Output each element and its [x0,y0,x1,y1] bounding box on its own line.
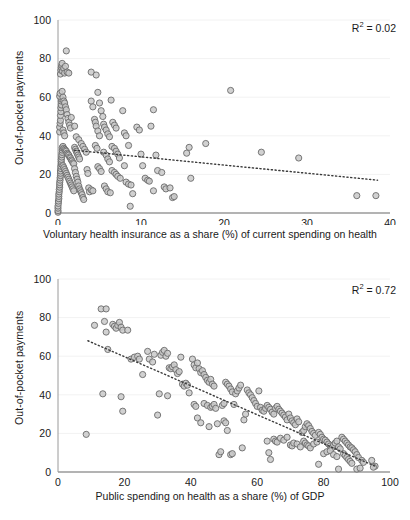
scatter-point [106,159,112,165]
y-tick-label: 0 [45,207,51,219]
scatter-point [127,203,133,209]
y-axis-label-bottom: Out-of-pocket payments [13,311,25,425]
scatter-point [83,431,89,437]
scatter-point [150,359,156,365]
x-tick-label: 60 [251,476,263,487]
trend-line [88,341,375,466]
gridlines [58,20,390,174]
data-points [55,48,379,216]
scatter-point [125,142,131,148]
scatter-point [100,391,106,397]
scatter-point [140,371,146,377]
scatter-point [360,459,366,465]
scatter-point [242,411,248,417]
y-tick-labels: 020406080100 [33,14,51,219]
scatter-point [62,63,68,69]
scatter-point [106,134,112,140]
scatter-point [334,453,340,459]
scatter-point [167,185,173,191]
scatter-point [284,434,290,440]
scatter-chart-bottom: Out-of-pocket payments 02040608010002040… [0,262,410,520]
scatter-point [156,391,162,397]
scatter-point [136,127,142,133]
y-tick-labels: 020406080100 [33,273,51,478]
x-tick-label: 30 [301,217,313,225]
scatter-point [123,133,129,139]
scatter-point [198,420,204,426]
scatter-point [148,123,154,129]
scatter-point [118,394,124,400]
scatter-point [146,178,152,184]
scatter-point [354,193,360,199]
x-tick-label: 20 [218,217,230,225]
scatter-point [214,421,220,427]
scatter-point [188,175,194,181]
scatter-point [194,360,200,366]
scatter-point [96,100,102,106]
scatter-point [93,72,99,78]
figure-root: Out-of-pocket payments 02040608010001020… [0,0,410,520]
scatter-point [85,170,91,176]
x-tick-label: 10 [135,217,147,225]
y-tick-label: 40 [39,389,51,401]
r2-annotation-bottom: R2 = 0.72 [352,282,396,296]
x-axis-label-top: Voluntary health insurance as a share (%… [30,228,390,241]
r2-value-bottom: 0.72 [376,284,396,296]
scatter-point [140,163,146,169]
scatter-point [103,329,109,335]
y-tick-label: 0 [45,466,51,478]
scatter-point [116,155,122,161]
scatter-point [221,400,227,406]
scatter-point [121,163,127,169]
scatter-point [105,346,111,352]
scatter-point [296,155,302,161]
y-tick-label: 100 [33,14,51,26]
scatter-point [186,144,192,150]
r2-value-top: 0.02 [376,22,396,34]
scatter-point [150,188,156,194]
plot-area-bottom: 020406080100020406080100 [0,262,410,487]
scatter-point [71,188,77,194]
scatter-point [145,348,151,354]
scatter-point [164,350,170,356]
scatter-point [211,383,217,389]
scatter-point [258,149,264,155]
scatter-point [72,123,78,129]
scatter-chart-top: Out-of-pocket payments 02040608010001020… [0,0,410,262]
scatter-point [98,168,104,174]
scatter-point [155,412,161,418]
y-tick-label: 60 [39,91,51,103]
y-tick-label: 60 [39,350,51,362]
y-tick-label: 80 [39,311,51,323]
scatter-point [117,175,123,181]
scatter-point [238,382,244,388]
x-tick-label: 40 [185,476,197,487]
scatter-point [100,113,106,119]
scatter-point [228,87,234,93]
scatter-point [349,460,355,466]
scatter-point [151,351,157,357]
scatter-point [101,318,107,324]
scatter-point [108,97,114,103]
gridlines [58,279,390,433]
scatter-point [176,369,182,375]
x-tick-labels: 020406080100 [55,476,399,487]
scatter-point [88,98,94,104]
scatter-point [357,465,363,471]
scatter-point [96,133,102,139]
scatter-point [130,191,136,197]
scatter-point [68,114,74,120]
scatter-point [98,108,104,114]
scatter-point [267,456,273,462]
y-tick-label: 20 [39,168,51,180]
scatter-point [113,125,119,131]
y-axis-label-top: Out-of-pocket payments [13,50,25,164]
scatter-point [66,70,72,76]
scatter-point [373,193,379,199]
scatter-point [81,196,87,202]
scatter-point [91,322,97,328]
scatter-point [94,145,100,151]
scatter-point [241,417,247,423]
x-tick-label: 80 [318,476,330,487]
scatter-point [266,450,272,456]
